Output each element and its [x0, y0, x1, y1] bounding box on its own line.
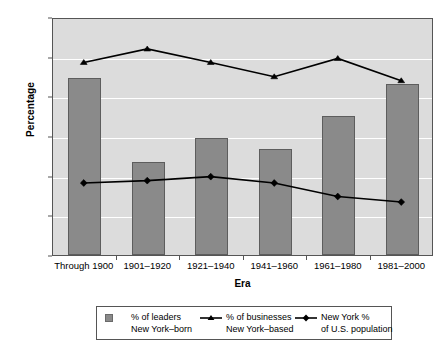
chart-figure: Percentage 051015202530 Through 19001901…	[0, 0, 448, 350]
series-line	[84, 49, 402, 81]
legend-label-line2: of U.S. population	[321, 324, 393, 336]
line-series-overlay	[52, 18, 433, 256]
x-axis-tick-mark	[306, 256, 307, 260]
x-axis-tick-mark	[243, 256, 244, 260]
data-point-marker	[334, 56, 341, 61]
data-point-marker	[80, 180, 87, 187]
legend-entry: New York %of U.S. population	[295, 312, 393, 335]
data-point-marker	[334, 193, 341, 200]
x-axis-tick-label: 1921–1940	[187, 260, 235, 271]
legend-label-line1: New York %	[321, 312, 393, 324]
legend-square-swatch-icon	[105, 314, 113, 322]
legend-label: % of businessesNew York–based	[226, 312, 294, 335]
legend-triangle-marker-icon	[200, 312, 222, 324]
x-axis-tick-label: Through 1900	[54, 260, 113, 271]
legend-label-line1: % of businesses	[226, 312, 294, 324]
legend-entry: % of businessesNew York–based	[200, 312, 294, 335]
series-line	[84, 177, 402, 202]
legend-entry: % of leadersNew York–born	[105, 312, 192, 335]
x-axis-tick-mark	[370, 256, 371, 260]
legend-label-line1: % of leaders	[131, 312, 192, 324]
x-axis-tick-mark	[116, 256, 117, 260]
data-point-marker	[144, 46, 151, 51]
data-point-marker	[271, 180, 278, 187]
data-point-marker	[144, 177, 151, 184]
data-point-marker	[398, 199, 405, 206]
legend-diamond-marker-icon	[295, 312, 317, 324]
y-axis-title: Percentage	[25, 50, 36, 170]
x-axis-tick-label: 1941–1960	[250, 260, 298, 271]
x-axis-tick-mark	[179, 256, 180, 260]
legend-label: New York %of U.S. population	[321, 312, 393, 335]
x-axis-tick-label: 1901–1920	[123, 260, 171, 271]
chart-legend: % of leadersNew York–born% of businesses…	[96, 306, 392, 340]
legend-label-line2: New York–born	[131, 324, 192, 336]
x-axis-tick-label: 1961–1980	[314, 260, 362, 271]
x-axis-tick-label: 1981–2000	[377, 260, 425, 271]
legend-label-line2: New York–based	[226, 324, 294, 336]
data-point-marker	[207, 173, 214, 180]
x-axis-title: Era	[52, 278, 433, 289]
legend-label: % of leadersNew York–born	[131, 312, 192, 335]
